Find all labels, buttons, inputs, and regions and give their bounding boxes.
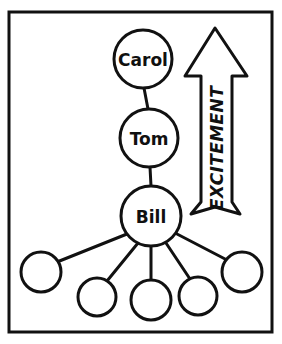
node-child-3[interactable] xyxy=(131,280,171,320)
diagram-canvas: EXCITEMENT CarolTomBill xyxy=(0,0,282,344)
node-child-5[interactable] xyxy=(222,252,262,292)
node-tom[interactable]: Tom xyxy=(120,109,178,167)
node-circle-child-1 xyxy=(21,252,61,292)
node-label-carol: Carol xyxy=(118,50,168,70)
node-child-4[interactable] xyxy=(179,277,217,315)
node-label-tom: Tom xyxy=(130,129,169,149)
node-label-bill: Bill xyxy=(136,207,166,227)
node-child-2[interactable] xyxy=(78,278,116,316)
node-child-1[interactable] xyxy=(21,252,61,292)
hierarchy-diagram: EXCITEMENT CarolTomBill xyxy=(0,0,282,344)
named-node-group: CarolTomBill xyxy=(114,30,181,246)
node-circle-child-5 xyxy=(222,252,262,292)
node-circle-child-3 xyxy=(131,280,171,320)
tom-to-bill xyxy=(150,167,151,186)
node-circle-child-4 xyxy=(179,277,217,315)
node-circle-child-2 xyxy=(78,278,116,316)
node-carol[interactable]: Carol xyxy=(114,30,172,88)
node-bill[interactable]: Bill xyxy=(121,186,181,246)
excitement-arrow-label: EXCITEMENT xyxy=(207,85,227,210)
